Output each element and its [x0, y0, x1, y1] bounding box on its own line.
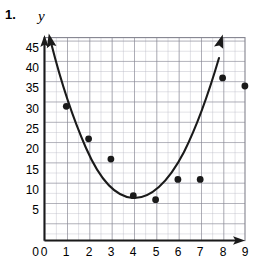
x-tick-label-6: 6	[171, 246, 185, 258]
grid-major	[44, 38, 245, 241]
x-tick-label-2: 2	[82, 246, 96, 258]
data-point	[108, 156, 115, 163]
y-tick-label-5: 5	[17, 204, 39, 216]
x-tick-label-4: 4	[126, 246, 140, 258]
data-point	[63, 103, 70, 110]
y-tick-label-10: 10	[17, 184, 39, 196]
x-tick-label-5: 5	[149, 246, 163, 258]
x-tick-label-0: 0	[37, 246, 51, 258]
data-point	[197, 176, 204, 183]
data-point	[152, 196, 159, 203]
data-point	[130, 192, 137, 199]
data-point	[242, 83, 249, 90]
x-tick-label-1: 1	[59, 246, 73, 258]
data-point	[219, 75, 226, 82]
x-tick-label-8: 8	[216, 246, 230, 258]
y-tick-label-45: 45	[17, 42, 39, 54]
scatter-plot-figure: 1. y	[0, 0, 253, 265]
x-tick-label-3: 3	[104, 246, 118, 258]
y-tick-label-25: 25	[17, 123, 39, 135]
y-tick-label-35: 35	[17, 82, 39, 94]
y-tick-label-30: 30	[17, 103, 39, 115]
x-tick-label-9: 9	[238, 246, 252, 258]
y-tick-label-20: 20	[17, 143, 39, 155]
y-tick-label-0: 0	[17, 246, 39, 258]
y-tick-label-40: 40	[17, 62, 39, 74]
data-point	[175, 176, 182, 183]
x-tick-label-7: 7	[193, 246, 207, 258]
data-point	[85, 135, 92, 142]
y-tick-label-15: 15	[17, 164, 39, 176]
